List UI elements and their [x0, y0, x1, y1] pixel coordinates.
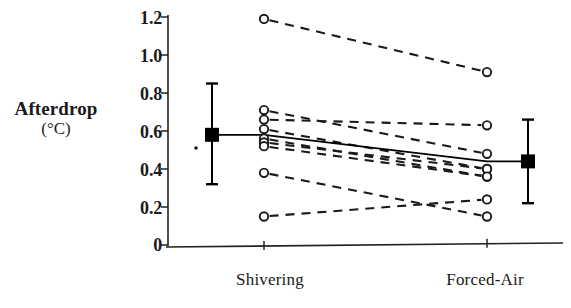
data-point-marker — [483, 121, 491, 129]
data-point-marker — [260, 142, 268, 150]
subject-line — [269, 20, 481, 71]
data-point-marker — [260, 125, 268, 133]
data-point-marker — [483, 150, 491, 158]
data-point-marker — [260, 106, 268, 114]
mean-line-group — [205, 84, 535, 204]
data-point-marker — [483, 195, 491, 203]
data-point-marker — [260, 115, 268, 123]
subject-line — [270, 130, 482, 168]
subject-line — [269, 111, 481, 153]
data-point-markers — [260, 15, 491, 221]
data-point-marker — [260, 15, 268, 23]
subject-line — [269, 174, 481, 216]
data-point-marker — [260, 212, 268, 220]
subject-lines-group — [269, 20, 481, 216]
y-axis-ticks — [161, 17, 168, 245]
plot-area — [0, 0, 571, 308]
mean-line — [264, 135, 487, 162]
axes — [161, 15, 563, 250]
subject-line — [270, 200, 482, 216]
data-point-marker — [483, 172, 491, 180]
stray-dot — [194, 146, 198, 150]
chart-figure: Afterdrop (°C) 1.2 1.0 0.8 0.6 0.4 0.2 0… — [0, 0, 571, 308]
x-axis-line — [166, 243, 563, 247]
subject-line — [270, 120, 482, 125]
data-point-marker — [483, 212, 491, 220]
data-point-marker — [260, 169, 268, 177]
data-point-marker — [483, 68, 491, 76]
